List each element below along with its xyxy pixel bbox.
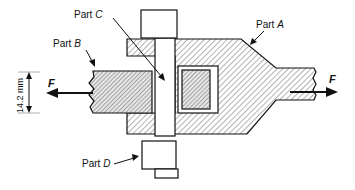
part-a-label: Part A: [256, 19, 284, 30]
thickness-dimension: 14.2 mm: [15, 72, 40, 113]
part-b-callout: Part B: [53, 38, 95, 67]
part-a-callout: Part A: [250, 19, 284, 45]
part-d-nut: [142, 141, 178, 178]
part-d-label: Part D: [82, 158, 110, 169]
part-b-tongue: [89, 70, 210, 113]
clevis-joint-diagram: F F 14.2 mm Part A Part B Part C Part D: [0, 0, 355, 190]
part-d-callout: Part D: [82, 154, 139, 169]
right-force-label: F: [329, 73, 336, 85]
part-c-label: Part C: [74, 9, 103, 20]
dimension-value: 14.2 mm: [15, 78, 25, 113]
part-b-label: Part B: [53, 38, 81, 49]
left-force-label: F: [48, 77, 55, 89]
left-force-arrow: F: [46, 77, 93, 98]
